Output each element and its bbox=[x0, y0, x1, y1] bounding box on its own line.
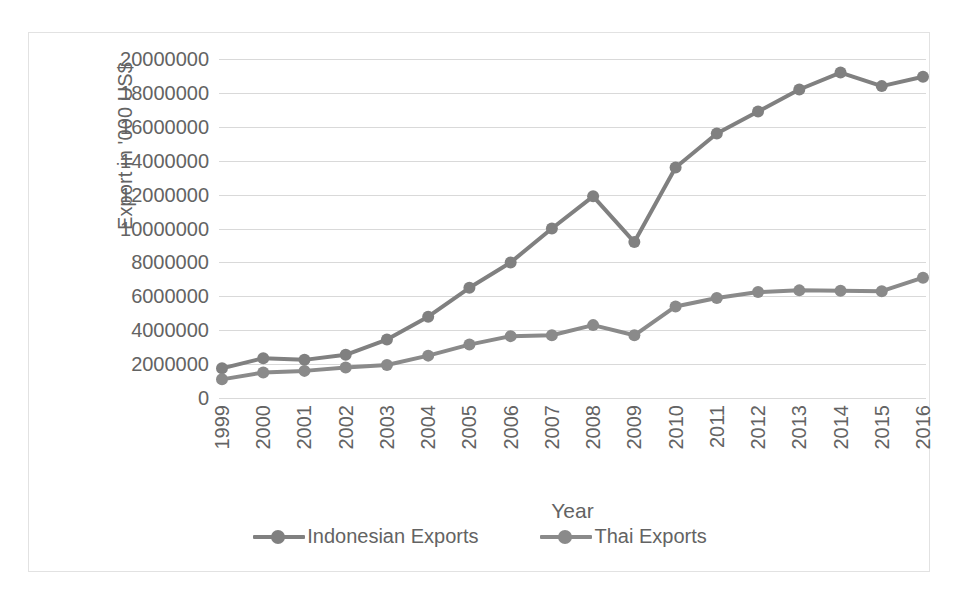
data-point bbox=[546, 223, 558, 235]
series-line bbox=[222, 73, 923, 369]
data-point bbox=[257, 352, 269, 364]
x-axis-tick-label: 2016 bbox=[912, 405, 934, 493]
data-point bbox=[876, 285, 888, 297]
data-point bbox=[546, 329, 558, 341]
x-axis-tick-label: 2014 bbox=[830, 405, 852, 493]
data-point bbox=[216, 373, 228, 385]
data-point bbox=[917, 272, 929, 284]
data-point bbox=[587, 319, 599, 331]
chart-frame: Export in '000 US$ 200000001800000016000… bbox=[28, 32, 930, 572]
x-axis-tick-label: 2007 bbox=[541, 405, 563, 493]
x-axis-tick-label: 2001 bbox=[293, 405, 315, 493]
data-point bbox=[257, 367, 269, 379]
x-axis-tick-label: 2009 bbox=[623, 405, 645, 493]
y-axis-tick-label: 4000000 bbox=[131, 319, 209, 342]
y-axis-tick-label: 8000000 bbox=[131, 251, 209, 274]
x-axis-tick-label: 2002 bbox=[335, 405, 357, 493]
chart-legend: Indonesian ExportsThai Exports bbox=[29, 525, 931, 548]
data-point bbox=[505, 256, 517, 268]
x-axis-tick-label: 2006 bbox=[500, 405, 522, 493]
data-point bbox=[298, 354, 310, 366]
data-point bbox=[422, 311, 434, 323]
y-axis-tick-label: 16000000 bbox=[120, 115, 209, 138]
y-axis-tick-label: 12000000 bbox=[120, 183, 209, 206]
data-point bbox=[381, 334, 393, 346]
legend-item-2[interactable]: Thai Exports bbox=[540, 525, 706, 548]
legend-marker-icon bbox=[540, 529, 592, 545]
y-axis-tick-label: 10000000 bbox=[120, 217, 209, 240]
x-axis-tick-label: 2000 bbox=[252, 405, 274, 493]
data-point bbox=[422, 350, 434, 362]
data-point bbox=[216, 362, 228, 374]
data-point bbox=[835, 67, 847, 79]
x-axis-tick-label: 2004 bbox=[417, 405, 439, 493]
x-axis-tick-label: 2010 bbox=[665, 405, 687, 493]
series-lines bbox=[219, 59, 926, 398]
data-point bbox=[670, 300, 682, 312]
legend-item-1[interactable]: Indonesian Exports bbox=[253, 525, 478, 548]
data-point bbox=[793, 284, 805, 296]
data-point bbox=[463, 339, 475, 351]
legend-marker-icon bbox=[253, 529, 305, 545]
legend-label: Thai Exports bbox=[594, 525, 706, 548]
data-point bbox=[752, 106, 764, 118]
series-2 bbox=[216, 272, 929, 386]
x-axis-tick-label: 2011 bbox=[706, 405, 728, 493]
data-point bbox=[505, 330, 517, 342]
y-axis-tick-label: 18000000 bbox=[120, 81, 209, 104]
y-axis-tick-label: 0 bbox=[198, 387, 209, 410]
data-point bbox=[711, 128, 723, 140]
data-point bbox=[917, 71, 929, 83]
data-point bbox=[298, 365, 310, 377]
y-axis-tick-label: 6000000 bbox=[131, 285, 209, 308]
series-line bbox=[222, 278, 923, 380]
data-point bbox=[876, 80, 888, 92]
data-point bbox=[381, 359, 393, 371]
x-axis-tick-label: 2003 bbox=[376, 405, 398, 493]
y-axis-tick-label: 14000000 bbox=[120, 149, 209, 172]
x-axis-tick-labels: 1999200020012002200320042005200620072008… bbox=[219, 405, 926, 493]
data-point bbox=[340, 349, 352, 361]
data-point bbox=[752, 286, 764, 298]
x-axis-tick-label: 2005 bbox=[458, 405, 480, 493]
x-axis-title: Year bbox=[219, 499, 926, 523]
data-point bbox=[711, 292, 723, 304]
data-point bbox=[793, 84, 805, 96]
x-axis-tick-label: 2015 bbox=[871, 405, 893, 493]
plot-area: 2000000018000000160000001400000012000000… bbox=[219, 59, 926, 398]
x-axis-tick-label: 1999 bbox=[211, 405, 233, 493]
data-point bbox=[670, 161, 682, 173]
data-point bbox=[835, 285, 847, 297]
gridline bbox=[219, 398, 926, 399]
x-axis-tick-label: 2012 bbox=[747, 405, 769, 493]
y-axis-tick-label: 20000000 bbox=[120, 48, 209, 71]
data-point bbox=[463, 282, 475, 294]
x-axis-tick-label: 2013 bbox=[788, 405, 810, 493]
data-point bbox=[587, 190, 599, 202]
legend-label: Indonesian Exports bbox=[307, 525, 478, 548]
y-axis-tick-label: 2000000 bbox=[131, 353, 209, 376]
data-point bbox=[340, 361, 352, 373]
data-point bbox=[628, 329, 640, 341]
data-point bbox=[628, 236, 640, 248]
x-axis-tick-label: 2008 bbox=[582, 405, 604, 493]
